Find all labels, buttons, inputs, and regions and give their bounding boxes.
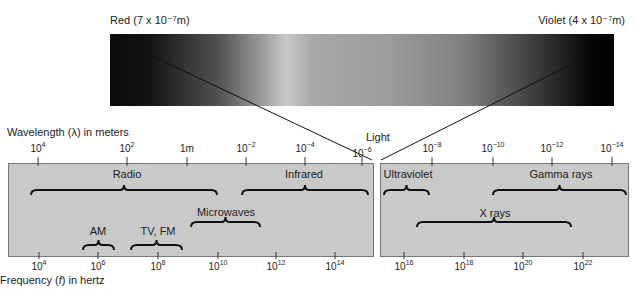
frequency-axis-title: Frequency (f) in hertz <box>0 274 105 286</box>
diagram-lines <box>0 0 637 289</box>
